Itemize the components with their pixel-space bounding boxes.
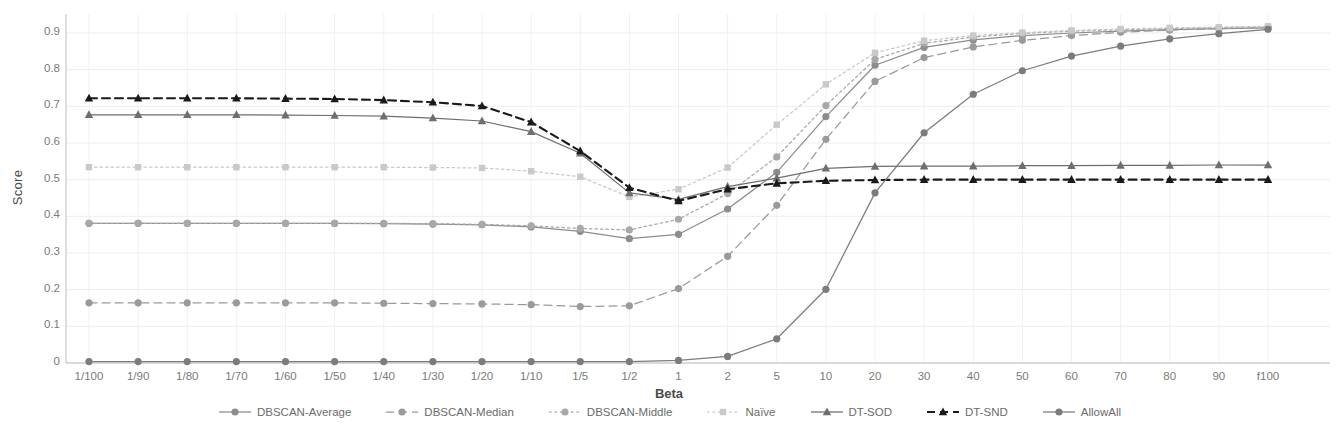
y-tick-label: 0.9	[26, 25, 60, 37]
y-tick-label: 0.4	[26, 208, 60, 220]
chart-container: Score 00.10.20.30.40.50.60.70.80.9 1/100…	[0, 0, 1339, 423]
legend-item[interactable]: DBSCAN-Middle	[548, 406, 673, 418]
legend-item-label: DBSCAN-Middle	[587, 406, 673, 418]
legend-item-label: DBSCAN-Average	[257, 406, 351, 418]
y-axis-title: Score	[2, 150, 32, 240]
y-tick-label: 0.3	[26, 245, 60, 257]
line-circle-dashed-icon	[385, 406, 419, 418]
legend-item-label: DT-SOD	[849, 406, 892, 418]
legend-item-label: AllowAll	[1081, 406, 1121, 418]
x-tick-label: f100	[1238, 370, 1298, 382]
y-tick-label: 0.1	[26, 318, 60, 330]
y-tick-label: 0.5	[26, 172, 60, 184]
legend-item-label: DBSCAN-Median	[424, 406, 513, 418]
y-axis-title-label: Score	[10, 153, 25, 223]
legend-item[interactable]: DBSCAN-Median	[385, 406, 513, 418]
line-triangle-solid-icon	[810, 406, 844, 418]
y-tick-label: 0	[26, 355, 60, 367]
legend-item-label: DT-SND	[965, 406, 1008, 418]
line-triangle-dashed-icon	[926, 406, 960, 418]
chart-axes	[66, 14, 1330, 363]
line-square-dotted-icon	[706, 406, 740, 418]
y-tick-label: 0.6	[26, 135, 60, 147]
y-tick-label: 0.2	[26, 282, 60, 294]
line-circle-dotted-icon	[548, 406, 582, 418]
x-axis-title: Beta	[609, 386, 729, 401]
legend-item[interactable]: DT-SND	[926, 406, 1008, 418]
y-tick-label: 0.7	[26, 98, 60, 110]
legend-item[interactable]: Naïve	[706, 406, 775, 418]
chart-legend: DBSCAN-AverageDBSCAN-MedianDBSCAN-Middle…	[0, 400, 1339, 423]
legend-item[interactable]: DBSCAN-Average	[218, 406, 351, 418]
chart-plot-area	[0, 0, 1339, 423]
legend-item-label: Naïve	[745, 406, 775, 418]
chart-gridlines	[66, 14, 1330, 363]
line-circle-solid-icon	[1042, 406, 1076, 418]
legend-item[interactable]: DT-SOD	[810, 406, 892, 418]
legend-item[interactable]: AllowAll	[1042, 406, 1121, 418]
line-circle-solid-icon	[218, 406, 252, 418]
y-tick-label: 0.8	[26, 62, 60, 74]
